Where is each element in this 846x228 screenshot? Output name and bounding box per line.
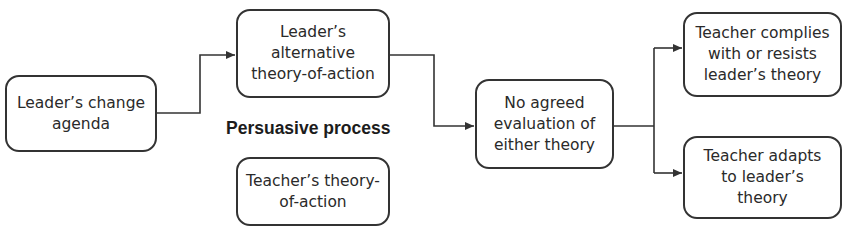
edge-leader-theory-to-no-agreed-eval (390, 55, 474, 126)
node-no-agreed-eval-text: No agreed evaluation of either theory (494, 93, 595, 156)
node-complies-resists-text: Teacher complies with or resists leader’… (695, 23, 829, 86)
node-adapts: Teacher adapts to leader’s theory (683, 136, 842, 219)
persuasive-process-label: Persuasive process (226, 118, 390, 139)
node-no-agreed-eval: No agreed evaluation of either theory (475, 79, 614, 169)
node-complies-resists: Teacher complies with or resists leader’… (683, 12, 842, 97)
node-teacher-theory: Teacher’s theory- of-action (236, 157, 390, 226)
node-change-agenda: Leader’s change agenda (5, 75, 157, 152)
node-leader-theory-text: Leader’s alternative theory-of-action (251, 22, 374, 85)
node-adapts-text: Teacher adapts to leader’s theory (704, 146, 822, 209)
node-leader-theory: Leader’s alternative theory-of-action (236, 9, 390, 98)
node-teacher-theory-text: Teacher’s theory- of-action (246, 171, 380, 213)
edge-change-agenda-to-leader-theory (157, 55, 235, 113)
node-change-agenda-text: Leader’s change agenda (17, 93, 145, 135)
